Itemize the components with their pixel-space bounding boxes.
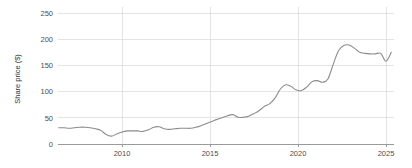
y-tick-label: 50 [45, 114, 53, 123]
x-tick-label: 2015 [202, 149, 219, 158]
share-price-line [59, 45, 392, 136]
y-tick-label: 250 [40, 9, 53, 18]
y-tick-label: 100 [40, 87, 53, 96]
x-tick-label: 2025 [378, 149, 395, 158]
x-gridlines-group [122, 7, 386, 144]
y-tick-label: 150 [40, 61, 53, 70]
x-tick-labels-group: 2010201520202025 [114, 149, 395, 158]
x-tick-label: 2020 [290, 149, 307, 158]
line-chart: 050100150200250 2010201520202025 Share p… [0, 0, 412, 168]
y-axis-title: Share price ($) [13, 54, 22, 104]
y-tick-label: 200 [40, 35, 53, 44]
x-tick-label: 2010 [114, 149, 131, 158]
chart-root: 050100150200250 2010201520202025 Share p… [0, 0, 412, 168]
y-tick-label: 0 [49, 140, 53, 149]
y-tick-labels-group: 050100150200250 [40, 9, 53, 149]
gridlines-group [58, 13, 394, 118]
